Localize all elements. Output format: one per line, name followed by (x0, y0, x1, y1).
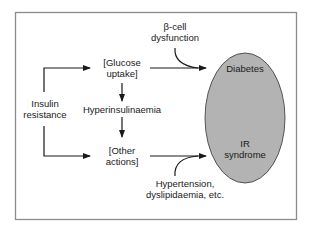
ir-syndrome-line2: syndrome (215, 149, 275, 160)
node-glucose-uptake: [Glucose uptake] (92, 57, 152, 79)
node-ir-syndrome: IR syndrome (215, 138, 275, 160)
node-insulin-resistance: Insulin resistance (17, 98, 73, 120)
glucose-uptake-line1: [Glucose (92, 57, 152, 68)
beta-cell-line2: dysfunction (140, 32, 210, 43)
node-hyperinsulinaemia: Hyperinsulinaemia (77, 104, 167, 115)
other-actions-line1: [Other (92, 145, 152, 156)
insulin-resistance-line1: Insulin (17, 98, 73, 109)
node-hypertension: Hypertension, dyslipidaemia, etc. (140, 178, 230, 200)
beta-cell-line1: β-cell (140, 21, 210, 32)
node-diabetes: Diabetes (215, 63, 275, 74)
other-actions-line2: actions] (92, 156, 152, 167)
node-beta-cell-dysfunction: β-cell dysfunction (140, 21, 210, 43)
hypertension-line1: Hypertension, (140, 178, 230, 189)
insulin-resistance-line2: resistance (17, 109, 73, 120)
node-other-actions: [Other actions] (92, 145, 152, 167)
diabetes-label: Diabetes (215, 63, 275, 74)
glucose-uptake-line2: uptake] (92, 68, 152, 79)
hyperinsulinaemia-label: Hyperinsulinaemia (77, 104, 167, 115)
hypertension-line2: dyslipidaemia, etc. (140, 189, 230, 200)
ir-syndrome-line1: IR (215, 138, 275, 149)
